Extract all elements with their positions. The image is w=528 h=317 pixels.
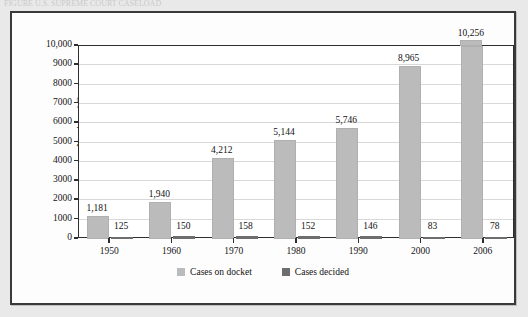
y-axis-tick-label: 3000	[30, 175, 72, 185]
gridline	[79, 199, 513, 200]
y-axis-tick-label: 6000	[30, 117, 72, 127]
bar-cases-decided[interactable]	[111, 237, 133, 239]
bar-label-cases-on-docket: 4,212	[192, 145, 252, 155]
gridline	[79, 142, 513, 143]
y-axis-tick-label: 5000	[30, 137, 72, 147]
bar-cases-on-docket[interactable]	[461, 46, 483, 239]
x-axis-tick-label: 1970	[211, 246, 257, 256]
legend-item-cases-decided[interactable]: Cases decided	[282, 267, 349, 277]
bar-label-cases-on-docket: 1,181	[67, 203, 127, 213]
bar-label-cases-decided: 125	[91, 221, 151, 231]
bar-label-cases-on-docket: 5,746	[316, 115, 376, 125]
plot-area	[78, 45, 514, 238]
x-axis-tick-label: 1990	[335, 246, 381, 256]
bar-cases-decided[interactable]	[423, 237, 445, 239]
x-axis-tick-mark	[358, 238, 360, 243]
y-axis-tick-label: 1000	[30, 214, 72, 224]
figure-caption-cutoff: FIGURE U.S. SUPREME COURT CASELOAD	[0, 0, 528, 7]
gridline	[79, 103, 513, 104]
bar-chart: Number of Cases 010002000300040005000600…	[12, 13, 514, 303]
bar-label-cases-on-docket: 10,256	[441, 28, 501, 38]
y-axis-tick-label: 4000	[30, 156, 72, 166]
x-axis-tick-mark	[171, 238, 173, 243]
x-axis-tick-mark	[108, 238, 110, 243]
gridline	[79, 64, 513, 65]
gridline	[79, 180, 513, 181]
x-axis-tick-mark	[233, 238, 235, 243]
x-axis-tick-mark	[482, 238, 484, 243]
bar-label-cases-on-docket: 1,940	[129, 189, 189, 199]
bar-cases-decided[interactable]	[360, 236, 382, 239]
figure-frame: Number of Cases 010002000300040005000600…	[10, 11, 516, 305]
y-axis-tick-label: 8000	[30, 79, 72, 89]
bar-label-cases-decided: 150	[153, 221, 213, 231]
gridline	[79, 122, 513, 123]
bar-label-cases-on-docket: 5,144	[254, 127, 314, 137]
bar-cases-on-docket-overflow[interactable]	[460, 40, 482, 46]
bar-cases-on-docket[interactable]	[399, 66, 421, 239]
bar-label-cases-decided: 158	[216, 221, 276, 231]
bar-cases-decided[interactable]	[236, 236, 258, 239]
x-axis-tick-label: 1960	[148, 246, 194, 256]
x-axis-tick-mark	[420, 238, 422, 243]
y-axis-tick-label: 0	[30, 233, 72, 243]
x-axis-tick-label: 1950	[86, 246, 132, 256]
legend-swatch-icon-docket	[177, 268, 185, 276]
bar-label-cases-on-docket: 8,965	[379, 53, 439, 63]
y-axis-tick-label: 9000	[30, 59, 72, 69]
x-axis-tick-label: 1980	[273, 246, 319, 256]
bar-cases-decided[interactable]	[173, 236, 195, 239]
x-axis-tick-mark	[295, 238, 297, 243]
legend-label-cases-on-docket: Cases on docket	[190, 267, 252, 277]
chart-legend: Cases on docket Cases decided	[12, 267, 514, 277]
gridline	[79, 161, 513, 162]
x-axis-tick-label: 2006	[460, 246, 506, 256]
bar-cases-decided[interactable]	[298, 236, 320, 239]
legend-item-cases-on-docket[interactable]: Cases on docket	[177, 267, 252, 277]
y-axis-tick-label: 2000	[30, 194, 72, 204]
x-axis-tick-label: 2000	[398, 246, 444, 256]
legend-swatch-icon-decided	[282, 268, 290, 276]
bar-label-cases-decided: 152	[278, 221, 338, 231]
legend-label-cases-decided: Cases decided	[295, 267, 349, 277]
gridline	[79, 84, 513, 85]
bar-label-cases-decided: 78	[465, 221, 525, 231]
bar-label-cases-decided: 83	[403, 221, 463, 231]
bar-cases-decided[interactable]	[485, 237, 507, 239]
y-axis-tick-label: 10,000	[30, 40, 72, 50]
y-axis-tick-label: 7000	[30, 98, 72, 108]
bar-label-cases-decided: 146	[340, 221, 400, 231]
gridline	[79, 219, 513, 220]
